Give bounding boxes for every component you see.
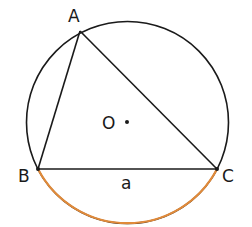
label-o: O [102,113,115,133]
vertex-b-dot [36,167,40,171]
label-c: C [222,166,234,186]
label-side-a: a [121,173,131,193]
center-o-dot [125,120,129,124]
side-ac [80,31,217,169]
side-ab [38,31,80,169]
label-b: B [18,166,30,186]
label-a: A [68,6,80,26]
vertex-c-dot [215,167,219,171]
geometry-diagram: A B C O a [0,0,252,227]
